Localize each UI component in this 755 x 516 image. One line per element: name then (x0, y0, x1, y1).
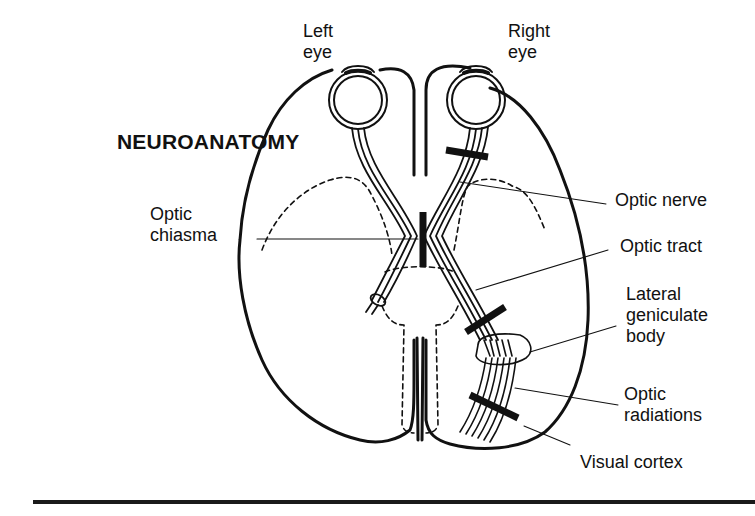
lgn-leader (530, 326, 616, 352)
visual-pathway-illustration (0, 0, 755, 516)
bottom-divider (33, 500, 755, 504)
right-eye-label: Right eye (508, 21, 550, 63)
longitudinal-fissure-lower (417, 338, 423, 440)
optic-radiations-label: Optic radiations (624, 384, 702, 426)
right-hemisphere-outline (426, 88, 588, 448)
left-hemisphere-outline (239, 70, 414, 442)
optic-tract-label: Optic tract (620, 236, 702, 257)
visual-cortex-label: Visual cortex (580, 452, 683, 473)
left-eye (329, 66, 387, 129)
left-eye-label: Left eye (303, 21, 333, 63)
lateral-geniculate-body-label: Lateral geniculate body (626, 284, 708, 347)
optic-nerve-label: Optic nerve (615, 190, 707, 211)
page-title: NEUROANATOMY (117, 130, 299, 154)
optic-nerve-leader (460, 182, 606, 204)
left-optic-pathway (352, 128, 417, 314)
optic-chiasma-label: Optic chiasma (150, 204, 217, 246)
optic-nerve-lesion (446, 150, 488, 157)
right-eye (447, 66, 505, 129)
neuroanatomy-diagram: NEUROANATOMY Left eye Right eye Optic ch… (0, 0, 755, 516)
left-hemisphere-medial-edge (380, 69, 414, 175)
